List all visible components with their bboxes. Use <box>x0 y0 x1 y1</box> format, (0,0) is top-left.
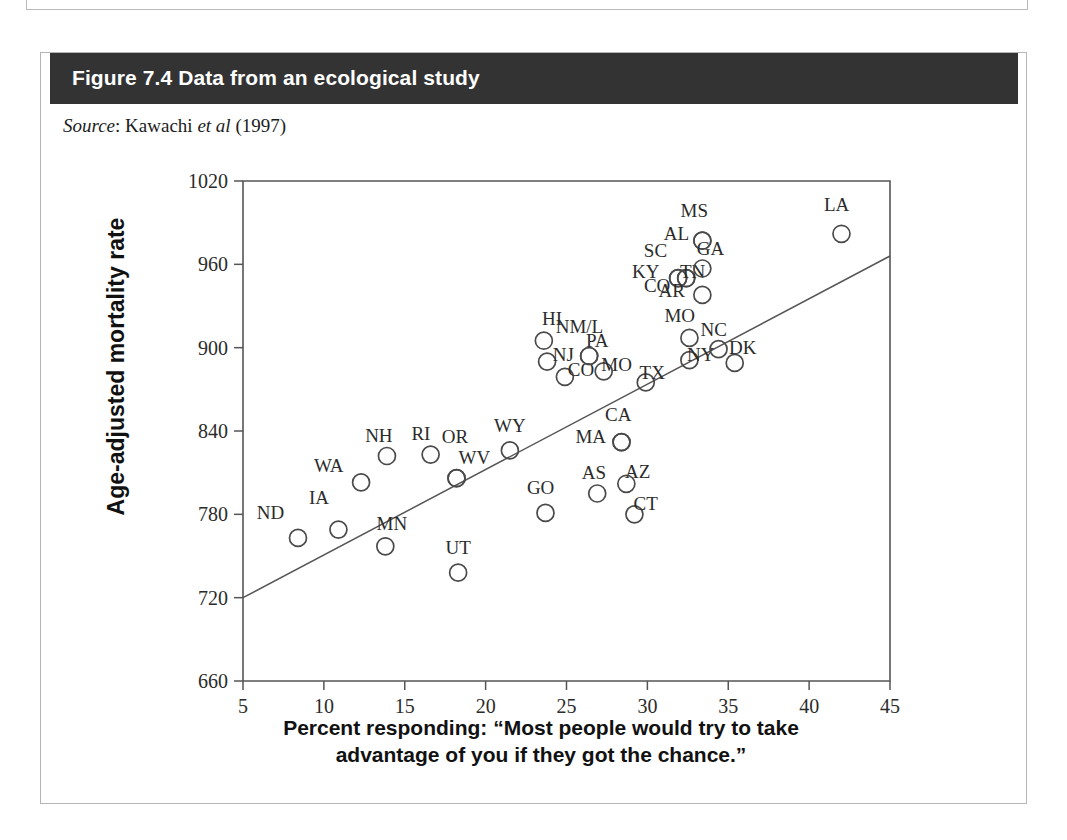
x-axis-title: Percent responding: “Most people would t… <box>161 715 921 769</box>
figure-container: Figure 7.4 Data from an ecological study… <box>40 52 1027 804</box>
data-point: UT <box>445 537 471 581</box>
data-point-label: MN <box>376 513 407 534</box>
plot-svg: NDIAMNWANHRIORWVUTWYGOHINJCONM/LPAMOASMA… <box>41 53 1028 753</box>
data-points-group: NDIAMNWANHRIORWVUTWYGOHINJCONM/LPAMOASMA… <box>257 194 850 581</box>
data-point: WV <box>448 447 490 487</box>
tick-labels-group: 660720780840900960102051015202530354045 <box>188 170 900 717</box>
data-point-label: UT <box>445 537 471 558</box>
data-point-label: MA <box>575 426 606 447</box>
data-point-marker <box>353 474 370 491</box>
data-point-marker <box>589 485 606 502</box>
data-point: AR <box>658 280 710 303</box>
x-tick-label: 35 <box>718 695 738 717</box>
data-point-label: CT <box>634 493 659 514</box>
x-tick-label: 20 <box>476 695 496 717</box>
data-point-label: IA <box>309 487 329 508</box>
data-point-marker <box>377 538 394 555</box>
data-point-label: TX <box>640 362 666 383</box>
data-point-label: LA <box>824 194 850 215</box>
y-tick-label: 900 <box>198 337 228 359</box>
data-point-label: CO <box>568 359 594 380</box>
data-point-marker <box>422 446 439 463</box>
data-point: WY <box>494 415 526 459</box>
data-point-label: NC <box>700 319 726 340</box>
data-point-marker <box>378 448 395 465</box>
data-point-label: AR <box>658 280 685 301</box>
x-tick-label: 5 <box>238 695 248 717</box>
x-tick-label: 30 <box>637 695 657 717</box>
x-tick-label: 10 <box>314 695 334 717</box>
data-point-marker <box>833 225 850 242</box>
data-point-label: DK <box>729 337 757 358</box>
data-point: CA <box>605 404 632 451</box>
data-point-label: TN <box>680 261 706 282</box>
data-point-label: OR <box>442 426 469 447</box>
data-point-label: MO <box>601 354 632 375</box>
data-point-marker <box>289 529 306 546</box>
data-point-label: PA <box>586 330 609 351</box>
data-point-marker <box>537 504 554 521</box>
data-point: IA <box>309 487 347 538</box>
data-point-label: GA <box>697 238 725 259</box>
y-axis-title: Age-adjusted mortality rate <box>103 187 130 547</box>
data-point-label: GO <box>527 477 554 498</box>
x-tick-label: 15 <box>395 695 415 717</box>
data-point: ND <box>257 502 307 546</box>
data-point: LA <box>824 194 850 242</box>
y-tick-label: 660 <box>198 670 228 692</box>
y-tick-label: 780 <box>198 503 228 525</box>
x-axis-title-line2: advantage of you if they got the chance.… <box>161 742 921 769</box>
data-point-label: MO <box>664 305 695 326</box>
data-point: MN <box>376 513 407 554</box>
data-point-label: WY <box>494 415 526 436</box>
y-tick-label: 720 <box>198 587 228 609</box>
data-point-label: NH <box>365 425 393 446</box>
x-axis-title-line1: Percent responding: “Most people would t… <box>161 715 921 742</box>
data-point-marker <box>450 564 467 581</box>
data-point-label: AL <box>664 223 689 244</box>
scatter-plot: NDIAMNWANHRIORWVUTWYGOHINJCONM/LPAMOASMA… <box>41 53 1028 805</box>
data-point-label: WV <box>458 447 490 468</box>
data-point-label: WA <box>314 455 344 476</box>
data-point-marker <box>535 332 552 349</box>
data-point-label: AS <box>582 462 606 483</box>
data-point: NH <box>365 425 395 465</box>
data-point: DK <box>726 337 757 371</box>
data-point-label: ND <box>257 502 284 523</box>
data-point: MO <box>595 354 632 380</box>
data-point: CT <box>626 493 658 523</box>
data-point: AS <box>582 462 606 502</box>
data-point: MO <box>664 305 698 346</box>
data-point: AZ <box>618 461 650 493</box>
page-box-artifact <box>26 0 1028 10</box>
data-point: GO <box>527 477 554 521</box>
trendline <box>243 256 890 598</box>
data-point-label: AZ <box>625 461 650 482</box>
x-tick-label: 25 <box>557 695 577 717</box>
data-point-label: RI <box>411 423 430 444</box>
data-point-marker <box>330 521 347 538</box>
y-tick-label: 1020 <box>188 170 228 192</box>
data-point: RI <box>411 423 439 463</box>
data-point-marker <box>694 286 711 303</box>
axis-group <box>234 181 890 690</box>
y-tick-label: 960 <box>198 253 228 275</box>
data-point-label: MS <box>681 200 708 221</box>
x-tick-label: 45 <box>880 695 900 717</box>
x-tick-label: 40 <box>799 695 819 717</box>
data-point-marker <box>613 434 630 451</box>
data-point: MA <box>575 426 630 451</box>
y-tick-label: 840 <box>198 420 228 442</box>
data-point: WA <box>314 455 370 491</box>
data-point-label: CA <box>605 404 632 425</box>
